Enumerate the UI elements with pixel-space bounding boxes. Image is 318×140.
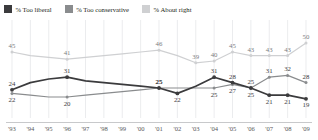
data-point	[10, 88, 14, 92]
legend-too-liberal[interactable]: % Too liberal	[4, 5, 52, 13]
data-point	[249, 54, 252, 57]
data-label: 31	[266, 67, 273, 74]
plot-area: 4541463940454343435022202525272531322824…	[0, 20, 318, 120]
data-point	[286, 54, 289, 57]
data-label: 45	[9, 42, 16, 49]
data-point	[268, 54, 271, 57]
data-label: 25	[247, 78, 254, 85]
data-point	[231, 51, 234, 54]
data-label: 43	[284, 46, 291, 53]
data-point	[305, 81, 308, 84]
data-label: 43	[266, 46, 273, 53]
x-axis: '93'94'95'96'97'98'99'00'01'02'03'04'05'…	[0, 122, 318, 134]
data-label: 31	[64, 67, 71, 74]
data-point	[212, 75, 216, 79]
data-label: 20	[64, 100, 71, 107]
data-point	[194, 61, 197, 64]
x-tick-label: '03	[192, 125, 200, 133]
data-point	[213, 87, 216, 90]
chart-legend: % Too liberal% Too conservative% About r…	[4, 3, 205, 15]
data-label: 41	[64, 49, 71, 56]
data-point	[11, 92, 14, 95]
data-label: 39	[192, 53, 199, 60]
x-tick-label: '97	[82, 125, 90, 133]
x-tick-label: '96	[63, 125, 71, 133]
legend-label: % About right	[154, 6, 192, 13]
data-point	[268, 76, 271, 79]
data-point	[249, 86, 253, 90]
legend-about-right[interactable]: % About right	[142, 5, 191, 13]
data-point	[213, 60, 216, 63]
x-axis-line	[6, 122, 312, 123]
data-label: 28	[303, 73, 310, 80]
data-point	[231, 81, 235, 85]
data-point	[66, 58, 69, 61]
gridlines	[12, 20, 306, 118]
data-label: 43	[247, 46, 254, 53]
data-point	[267, 93, 271, 97]
x-tick-label: '95	[45, 125, 53, 133]
x-tick-label: '08	[284, 125, 292, 133]
x-tick-label: '07	[265, 125, 273, 133]
data-point	[304, 97, 308, 101]
x-tick-label: '02	[173, 125, 181, 133]
data-label: 50	[303, 33, 310, 40]
data-label: 19	[303, 101, 310, 108]
data-label: 21	[284, 98, 291, 105]
legend-label: % Too liberal	[16, 6, 52, 13]
data-label: 32	[284, 65, 291, 72]
data-point	[157, 86, 161, 90]
legend-swatch-icon	[142, 5, 150, 13]
x-tick-label: '01	[155, 125, 163, 133]
data-label: 24	[9, 80, 16, 87]
data-label: 27	[229, 87, 236, 94]
data-point	[286, 74, 289, 77]
x-tick-label: '94	[26, 125, 34, 133]
data-point	[158, 49, 161, 52]
data-label: 28	[229, 73, 236, 80]
data-label: 21	[266, 98, 273, 105]
data-point	[175, 92, 179, 96]
data-point	[11, 51, 14, 54]
line-chart: % Too liberal% Too conservative% About r…	[0, 0, 318, 140]
data-label: 22	[174, 96, 181, 103]
legend-swatch-icon	[65, 5, 73, 13]
legend-label: % Too conservative	[76, 6, 129, 13]
data-label: 22	[9, 96, 16, 103]
x-tick-label: '06	[247, 125, 255, 133]
x-tick-label: '00	[137, 125, 145, 133]
data-label: 46	[156, 40, 163, 47]
x-tick-label: '09	[302, 125, 310, 133]
data-label: 31	[211, 67, 218, 74]
x-tick-label: '04	[210, 125, 218, 133]
data-label: 45	[229, 42, 236, 49]
data-point	[305, 42, 308, 45]
data-label: 25	[211, 91, 218, 98]
data-point	[65, 75, 69, 79]
data-label: 40	[211, 51, 218, 58]
x-tick-label: '05	[229, 125, 237, 133]
data-point	[286, 93, 290, 97]
legend-swatch-icon	[4, 5, 12, 13]
data-point	[66, 96, 69, 99]
x-tick-label: '93	[8, 125, 16, 133]
data-label: 25	[156, 78, 163, 85]
x-tick-label: '99	[118, 125, 126, 133]
data-label: 25	[247, 91, 254, 98]
x-tick-label: '98	[100, 125, 108, 133]
legend-too-conservative[interactable]: % Too conservative	[65, 5, 129, 13]
